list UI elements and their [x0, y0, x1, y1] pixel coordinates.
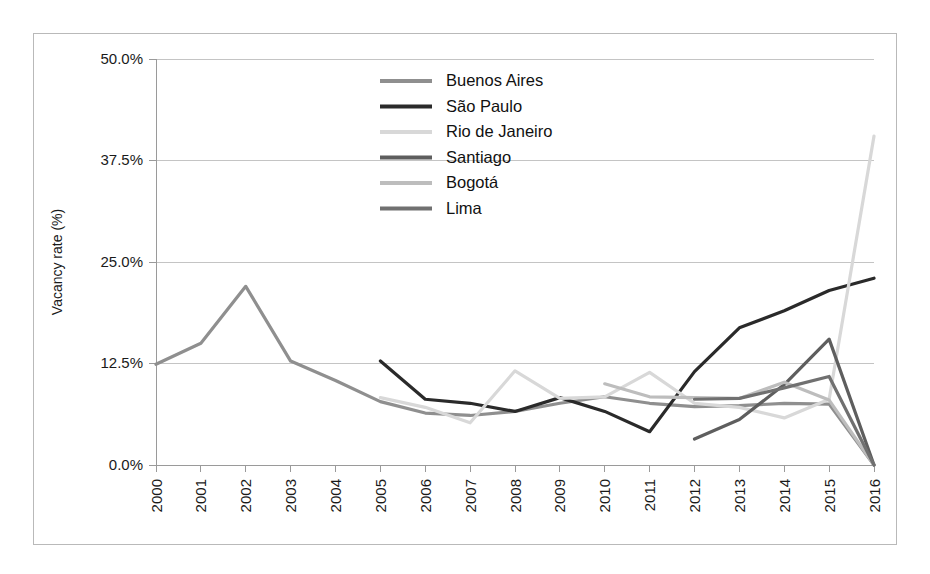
line-chart-svg: 0.0%12.5%25.0%37.5%50.0% 200020012002200… [34, 34, 896, 544]
x-tick-label: 2014 [776, 479, 793, 512]
legend-label-lima: Lima [446, 199, 483, 217]
x-tick-label: 2006 [417, 479, 434, 512]
x-tick-label: 2011 [641, 479, 658, 511]
x-tick-label: 2005 [372, 479, 389, 512]
x-tick-label: 2015 [821, 479, 838, 512]
legend-label-santiago: Santiago [446, 148, 511, 166]
x-axis-ticks-group: 2000200120022003200420052006200720082009… [148, 465, 883, 512]
x-tick-label: 2010 [596, 479, 613, 512]
legend-label-buenos-aires: Buenos Aires [446, 71, 543, 89]
x-tick-label: 2001 [192, 479, 209, 512]
legend-label-rio-de-janeiro: Rio de Janeiro [446, 122, 552, 140]
series-line-s-o-paulo [380, 278, 874, 431]
y-tick-label: 50.0% [100, 50, 143, 67]
x-tick-label: 2000 [148, 479, 165, 512]
y-axis-ticks-group: 0.0%12.5%25.0%37.5%50.0% [100, 50, 156, 473]
x-tick-label: 2009 [551, 479, 568, 512]
y-axis-title: Vacancy rate (%) [49, 209, 65, 315]
x-tick-label: 2004 [327, 479, 344, 512]
legend-label-s-o-paulo: São Paulo [446, 97, 522, 115]
y-tick-label: 25.0% [100, 253, 143, 270]
x-tick-label: 2008 [507, 479, 524, 512]
x-tick-label: 2002 [237, 479, 254, 512]
x-tick-label: 2013 [731, 479, 748, 512]
y-axis-title-group: Vacancy rate (%) [49, 209, 65, 315]
x-tick-label: 2012 [686, 479, 703, 512]
y-tick-label: 37.5% [100, 151, 143, 168]
y-tick-label: 0.0% [109, 456, 143, 473]
series-line-bogot [605, 382, 874, 465]
y-tick-label: 12.5% [100, 354, 143, 371]
x-tick-label: 2003 [282, 479, 299, 512]
x-tick-label: 2016 [866, 479, 883, 512]
legend-group: Buenos AiresSão PauloRio de JaneiroSanti… [380, 71, 552, 217]
x-tick-label: 2007 [462, 479, 479, 512]
legend-label-bogot: Bogotá [446, 173, 499, 191]
chart-figure: 0.0%12.5%25.0%37.5%50.0% 200020012002200… [33, 33, 897, 545]
data-series-group [156, 136, 874, 465]
series-line-buenos-aires [156, 286, 874, 465]
